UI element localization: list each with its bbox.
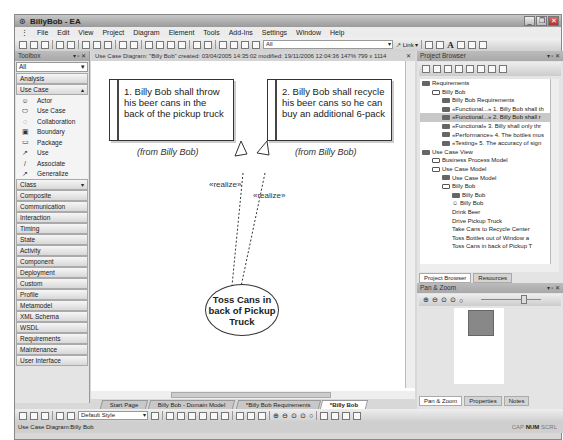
menu-view[interactable]: View bbox=[78, 29, 93, 36]
print-preview-icon[interactable] bbox=[82, 41, 90, 49]
diagram-canvas[interactable]: 1. Billy Bob shall throw his beer cans i… bbox=[91, 61, 405, 388]
image-icon[interactable] bbox=[479, 41, 487, 49]
zoom-out-icon[interactable]: ⊖ bbox=[282, 412, 288, 420]
toolbox-group-composite[interactable]: Composite bbox=[16, 190, 88, 201]
toolbox-group-metamodel[interactable]: Metamodel bbox=[16, 300, 88, 311]
tab-resources[interactable]: Resources bbox=[473, 273, 512, 283]
menu-help[interactable]: Help bbox=[330, 29, 344, 36]
menu-diagram[interactable]: Diagram bbox=[133, 29, 159, 36]
report-icon[interactable] bbox=[219, 41, 227, 49]
zoom-reset-icon[interactable]: ○ bbox=[309, 412, 313, 419]
toolbox-group-user-interface[interactable]: User Interface bbox=[16, 355, 88, 366]
tree-node[interactable]: Billy Bob bbox=[420, 191, 550, 200]
menu-element[interactable]: Element bbox=[169, 29, 195, 36]
save-icon[interactable] bbox=[41, 41, 49, 49]
menu-add-ins[interactable]: Add-Ins bbox=[229, 29, 253, 36]
format-painter-icon[interactable] bbox=[151, 412, 159, 420]
tab-pan-zoom[interactable]: Pan & Zoom bbox=[419, 396, 462, 406]
diagram-vertical-scrollbar[interactable] bbox=[405, 61, 415, 388]
style-select[interactable]: Default Style bbox=[78, 411, 148, 420]
tools-icon[interactable] bbox=[252, 41, 260, 49]
diagram-horizontal-scrollbar[interactable] bbox=[91, 391, 415, 399]
tool-package[interactable]: ▭Package bbox=[16, 137, 88, 148]
tree-node[interactable]: «Functional» 3. Billy shall only thr bbox=[420, 122, 550, 131]
tree-node[interactable]: «Testing» 5. The accuracy of sign bbox=[420, 139, 550, 148]
move-down-icon[interactable] bbox=[499, 65, 507, 73]
boundary-icon[interactable] bbox=[457, 41, 465, 49]
tool-generalize[interactable]: ↗Generalize bbox=[16, 169, 88, 180]
grid-icon[interactable] bbox=[331, 412, 339, 420]
menu-file[interactable]: File bbox=[37, 29, 48, 36]
tree-node[interactable]: ☺Billy Bob bbox=[420, 199, 550, 208]
panel-controls[interactable]: ▾ ▫ ✕ bbox=[547, 51, 560, 61]
pan-zoom-preview[interactable] bbox=[454, 308, 504, 384]
align-right-icon[interactable] bbox=[188, 412, 196, 420]
toolbox-group-custom[interactable]: Custom bbox=[16, 278, 88, 289]
tree-node[interactable]: Use Case Model bbox=[420, 174, 550, 183]
toolbox-group-requirements[interactable]: Requirements bbox=[16, 333, 88, 344]
menu-window[interactable]: Window bbox=[296, 29, 321, 36]
font-color-icon[interactable] bbox=[30, 412, 38, 420]
align-left-icon[interactable] bbox=[166, 412, 174, 420]
align-center-icon[interactable] bbox=[177, 412, 185, 420]
toolbox-group-communication[interactable]: Communication bbox=[16, 201, 88, 212]
tool-boundary[interactable]: ▣Boundary bbox=[16, 127, 88, 138]
tool-use[interactable]: ↗Use bbox=[16, 148, 88, 159]
panel-controls[interactable]: ▾ ▫ ✕ bbox=[73, 51, 86, 61]
tab-billy-bob-domain-model[interactable]: Billy Bob - Domain Model bbox=[148, 400, 236, 409]
tree-node[interactable]: Billy Bob bbox=[420, 182, 550, 191]
tree-node[interactable]: Toss Cans in back of Pickup T bbox=[420, 242, 550, 251]
toolbox-group-maintenance[interactable]: Maintenance bbox=[16, 344, 88, 355]
home-icon[interactable] bbox=[258, 412, 266, 420]
toolbox-group-analysis[interactable]: Analysis bbox=[16, 73, 88, 84]
tab-start-page[interactable]: Start Page bbox=[100, 400, 149, 409]
hierarchy-icon[interactable] bbox=[455, 65, 463, 73]
same-width-icon[interactable] bbox=[210, 412, 218, 420]
link-button[interactable]: ↗ Link ▾ bbox=[396, 41, 418, 48]
folder-icon[interactable] bbox=[444, 65, 452, 73]
tree-horizontal-scrollbar[interactable] bbox=[420, 264, 559, 272]
zoom-slider[interactable] bbox=[481, 299, 541, 300]
brush-icon[interactable] bbox=[67, 412, 75, 420]
tree-node[interactable]: Requirements bbox=[420, 79, 550, 88]
maximize-button[interactable]: ❐ bbox=[536, 16, 547, 26]
requirement-2[interactable]: 2. Billy Bob shall recycle his beer cans… bbox=[267, 79, 392, 141]
text-icon[interactable]: A bbox=[447, 40, 454, 50]
use-case-toss-cans[interactable]: Toss Cans in back of Pickup Truck bbox=[205, 284, 279, 336]
cut-icon[interactable] bbox=[56, 41, 64, 49]
undo-icon[interactable] bbox=[67, 41, 75, 49]
requirement-1[interactable]: 1. Billy Bob shall throw his beer cans i… bbox=[109, 79, 234, 141]
toolbox-group-interaction[interactable]: Interaction bbox=[16, 212, 88, 223]
tree-node[interactable]: «Functional...» 1. Billy Bob shall th bbox=[420, 105, 550, 114]
new-diagram-icon[interactable] bbox=[433, 65, 441, 73]
tree-node[interactable]: Drink Beer bbox=[420, 208, 550, 217]
line-color-icon[interactable] bbox=[41, 412, 49, 420]
toolbox-group-xml-schema[interactable]: XML Schema bbox=[16, 311, 88, 322]
text-doc-icon[interactable] bbox=[436, 41, 444, 49]
toolbox-group-wsdl[interactable]: WSDL bbox=[16, 322, 88, 333]
menu-settings[interactable]: Settings bbox=[262, 29, 287, 36]
tree-node[interactable]: «Performance» 4. The bottles mus bbox=[420, 131, 550, 140]
zoom-out-icon[interactable]: ⊖ bbox=[432, 296, 438, 304]
pen-icon[interactable] bbox=[342, 412, 350, 420]
tree-node[interactable]: Take Cans to Recycle Center bbox=[420, 225, 550, 234]
close-diagram-icon[interactable]: ✕ bbox=[406, 51, 411, 61]
search-icon[interactable] bbox=[204, 41, 212, 49]
package-icon[interactable] bbox=[167, 41, 175, 49]
tool-associate[interactable]: /Associate bbox=[16, 158, 88, 169]
tab-notes[interactable]: Notes bbox=[504, 396, 530, 406]
tab-project-browser[interactable]: Project Browser bbox=[419, 273, 471, 283]
tree-node[interactable]: Drive Pickup Truck bbox=[420, 217, 550, 226]
tree-node[interactable]: Billy Bob bbox=[420, 88, 550, 97]
tree-node[interactable]: Billy Bob Requirements bbox=[420, 96, 550, 105]
delete-icon[interactable] bbox=[353, 412, 361, 420]
menu-tools[interactable]: Tools bbox=[203, 29, 219, 36]
zoom-100-icon[interactable]: ⊙ bbox=[300, 412, 306, 420]
zoom-in-icon[interactable]: ⊕ bbox=[423, 296, 429, 304]
html-icon[interactable] bbox=[241, 41, 249, 49]
toolbox-group-state[interactable]: State bbox=[16, 234, 88, 245]
tree-node[interactable]: Use Case View bbox=[420, 148, 550, 157]
new-package-icon[interactable] bbox=[422, 65, 430, 73]
panel-controls[interactable]: ▾ ▫ ✕ bbox=[547, 283, 560, 293]
tree-node[interactable]: Use Case Model bbox=[420, 165, 550, 174]
